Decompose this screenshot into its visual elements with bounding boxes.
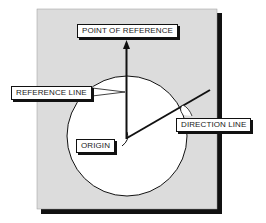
label-reference-line: REFERENCE LINE xyxy=(11,86,92,100)
label-direction-line: DIRECTION LINE xyxy=(176,118,251,132)
label-point-of-reference: POINT OF REFERENCE xyxy=(77,24,178,38)
label-origin: ORIGIN xyxy=(76,139,115,153)
